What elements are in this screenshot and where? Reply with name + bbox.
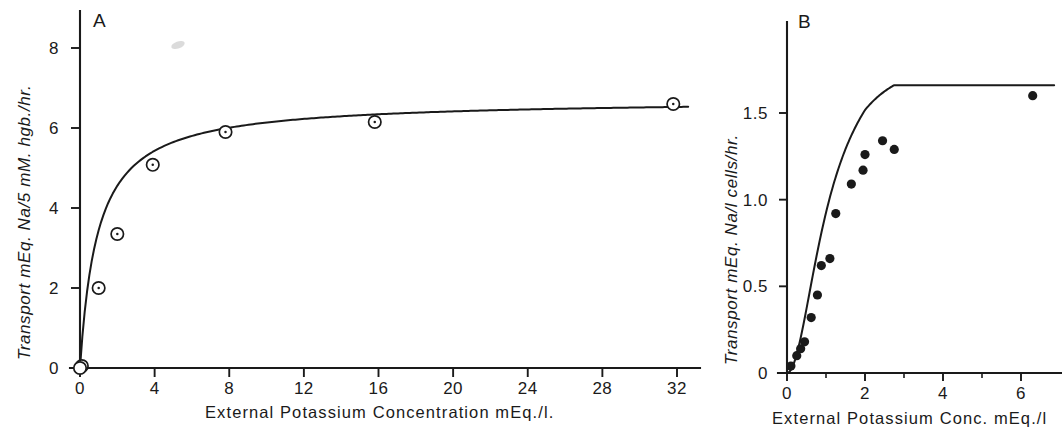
panel-b-y-tick-label: 0.5 <box>743 277 768 296</box>
panel-a-data-point-center <box>152 164 155 167</box>
panel-b-data-point <box>807 313 816 322</box>
panel-b-x-tick-label: 0 <box>782 384 792 403</box>
panel-a-y-tick-label: 8 <box>49 39 59 58</box>
panel-b-label: B <box>798 11 811 32</box>
panel-a-data-point-center <box>97 287 100 290</box>
panel-a-x-tick-label: 20 <box>443 379 463 398</box>
panel-b-data-points <box>786 91 1037 371</box>
panel-a-x-tick-label: 8 <box>224 379 234 398</box>
panel-a-x-tick-label: 0 <box>75 379 85 398</box>
panel-b-x-ticks: 0246 <box>782 373 1026 403</box>
panel-b-x-axis-title: External Potassium Conc. mEq./l <box>772 409 1047 427</box>
panel-b-x-tick-label: 4 <box>938 384 948 403</box>
panel-b-data-point <box>1028 91 1037 100</box>
panel-b-data-point <box>878 136 887 145</box>
panel-b-y-ticks: 00.51.01.5 <box>743 104 787 383</box>
panel-a-x-ticks: 048121620242832 <box>75 368 687 398</box>
panel-b-data-point <box>800 337 809 346</box>
panel-a-x-tick-label: 4 <box>150 379 160 398</box>
panel-a-y-axis-title: Transport mEq. Na/5 mM. hgb./hr. <box>15 85 34 360</box>
panel-b-y-axis-title: Transport mEq. Na/l cells/hr. <box>722 134 741 365</box>
panel-a-origin-point <box>74 362 86 374</box>
panel-a-data-point-center <box>374 121 377 124</box>
panel-b-data-point <box>786 361 795 370</box>
panel-a: A 048121620242832 02468 External Potassi… <box>15 10 700 421</box>
panel-a-fit-curve <box>80 107 688 368</box>
two-panel-kinetics-figure: A 048121620242832 02468 External Potassi… <box>0 0 1062 434</box>
panel-b-data-point <box>825 254 834 263</box>
panel-a-x-tick-label: 28 <box>592 379 612 398</box>
panel-a-y-tick-label: 6 <box>49 119 59 138</box>
panel-b-data-point <box>817 261 826 270</box>
panel-a-y-tick-label: 0 <box>49 359 59 378</box>
panel-a-y-tick-label: 4 <box>49 199 59 218</box>
panel-b-x-tick-label: 2 <box>860 384 870 403</box>
panel-b-data-point <box>813 290 822 299</box>
panel-b-x-tick-label: 6 <box>1016 384 1026 403</box>
figure-container: A 048121620242832 02468 External Potassi… <box>0 0 1062 434</box>
panel-a-data-points <box>74 98 680 374</box>
panel-a-y-ticks: 02468 <box>49 39 80 378</box>
panel-b-y-tick-label: 1.0 <box>743 191 768 210</box>
panel-a-x-tick-label: 16 <box>369 379 389 398</box>
panel-b-data-point <box>860 150 869 159</box>
panel-b-data-point <box>858 166 867 175</box>
panel-a-x-axis-title: External Potassium Concentration mEq./l. <box>205 403 554 421</box>
panel-b-y-tick-label: 0 <box>758 364 768 383</box>
panel-a-data-point-center <box>672 103 675 106</box>
panel-b-data-point <box>847 179 856 188</box>
paper-smudge-artifact <box>170 39 186 50</box>
panel-a-label: A <box>93 10 106 31</box>
panel-b: B 0246 00.51.01.5 External Potassium Con… <box>722 11 1062 427</box>
panel-a-x-tick-label: 32 <box>667 379 687 398</box>
panel-a-y-tick-label: 2 <box>49 279 59 298</box>
panel-a-x-tick-label: 24 <box>518 379 538 398</box>
panel-b-y-tick-label: 1.5 <box>743 104 768 123</box>
panel-a-data-point-center <box>116 233 119 236</box>
panel-b-fit-curve <box>787 85 1054 373</box>
panel-a-x-tick-label: 12 <box>294 379 314 398</box>
panel-b-data-point <box>831 209 840 218</box>
panel-a-data-point-center <box>224 131 227 134</box>
panel-b-data-point <box>890 145 899 154</box>
